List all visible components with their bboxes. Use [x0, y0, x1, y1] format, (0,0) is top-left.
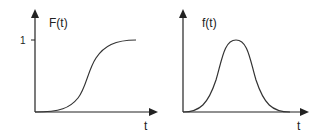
pdf-x-arrow-icon — [300, 108, 309, 116]
cdf-x-label: t — [144, 119, 148, 133]
pdf-y-label: f(t) — [202, 16, 217, 30]
cdf-chart: 1 F(t) t — [20, 9, 158, 133]
cdf-curve — [35, 40, 136, 112]
cdf-tick-label: 1 — [20, 35, 26, 46]
distribution-diagram: 1 F(t) t f(t) t — [0, 0, 326, 139]
pdf-curve — [183, 40, 290, 112]
pdf-chart: f(t) t — [179, 9, 309, 133]
cdf-y-label: F(t) — [49, 16, 68, 30]
pdf-y-arrow-icon — [179, 9, 187, 18]
pdf-x-label: t — [297, 119, 301, 133]
cdf-y-arrow-icon — [31, 9, 39, 18]
cdf-x-arrow-icon — [149, 108, 158, 116]
